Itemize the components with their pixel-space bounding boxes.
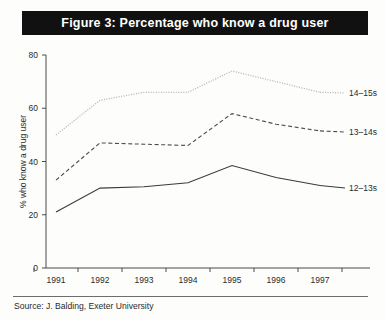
x-tick-label: 1994 [179,275,198,285]
series-leader-13-14s [320,131,345,132]
chart-series-labels: 14–15s13–14s12–13s [320,88,377,193]
y-tick-label: 80 [29,50,39,60]
series-line-12-13s [56,166,320,213]
x-tick-label: 1995 [223,275,242,285]
y-tick-label: 60 [29,103,39,113]
x-tick-label: 1997 [311,275,330,285]
series-leader-14-15s [320,92,345,93]
x-tick-label: 1996 [267,275,286,285]
line-chart: 0204060801991199219931994199519961997% w… [0,40,385,290]
figure-title-banner: Figure 3: Percentage who know a drug use… [22,11,368,35]
series-line-14-15s [56,71,320,135]
x-tick-label: 1991 [47,275,66,285]
chart-axes: 0204060801991199219931994199519961997% w… [18,50,370,285]
series-label-14-15s: 14–15s [349,88,377,98]
figure-container: Figure 3: Percentage who know a drug use… [0,0,385,320]
page-title: Figure 3: Percentage who know a drug use… [61,16,328,30]
y-axis-title: % who know a drug user [18,115,28,208]
chart-plot-area: 0204060801991199219931994199519961997% w… [0,40,385,290]
x-tick-label: 1993 [135,275,154,285]
chart-series [56,71,320,212]
series-label-13-14s: 13–14s [349,127,377,137]
y-tick-label: 20 [29,210,39,220]
series-label-12-13s: 12–13s [349,183,377,193]
y-tick-label: 40 [29,157,39,167]
footer-divider [13,296,368,297]
series-line-13-14s [56,114,320,181]
series-leader-12-13s [320,186,345,189]
source-note: Source: J. Balding, Exeter University [14,301,153,311]
x-tick-label: 1992 [91,275,110,285]
